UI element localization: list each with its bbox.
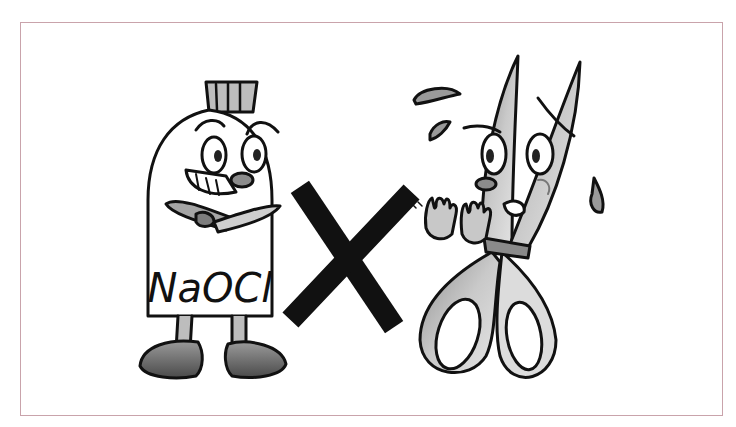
scissors-nose <box>476 178 496 190</box>
scissors-mouth <box>504 201 524 215</box>
bottle-right-shoe <box>225 342 286 377</box>
scissors-right-eye <box>527 134 553 174</box>
separator-symbol-text: X <box>0 0 11 3</box>
scissors-character <box>412 56 603 377</box>
illustration-canvas: NaOCl X <box>0 0 736 427</box>
bleach-bottle-character: NaOCl <box>140 82 286 378</box>
bottle-left-shoe <box>140 341 202 378</box>
scissors-raised-hands <box>425 198 490 243</box>
bottle-cap <box>206 82 257 112</box>
scissors-left-eye <box>482 134 506 174</box>
prohibition-x-mark <box>298 196 404 318</box>
scissors-handles <box>420 252 556 377</box>
bottle-nose <box>231 173 253 187</box>
bottle-label-text: NaOCl <box>148 265 273 311</box>
bottle-left-eye <box>202 137 226 173</box>
